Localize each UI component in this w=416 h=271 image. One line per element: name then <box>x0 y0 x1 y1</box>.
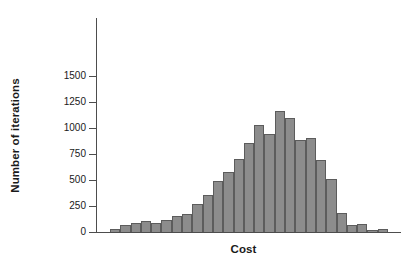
histogram-bar <box>275 111 285 232</box>
histogram-bar <box>306 138 316 232</box>
histogram-bar <box>357 224 367 232</box>
histogram-bar <box>131 223 141 232</box>
x-axis-line <box>96 232 401 233</box>
histogram-bar <box>337 213 347 232</box>
y-axis-tick-label: 0 <box>52 227 86 237</box>
histogram-bar <box>367 230 377 232</box>
histogram-bar <box>192 204 202 232</box>
histogram-bar <box>347 225 357 232</box>
histogram-bar <box>244 143 254 232</box>
y-axis-tick-label: 500 <box>52 175 86 185</box>
histogram-bar <box>172 216 182 232</box>
histogram-bar <box>141 221 151 232</box>
histogram-bar <box>326 179 336 232</box>
y-axis-tick-label: 250 <box>52 201 86 211</box>
histogram-bar <box>213 181 223 232</box>
histogram-figure: Number of iterations 0250500750100012501… <box>0 0 416 271</box>
y-axis-tick: 1250 <box>0 97 86 107</box>
plot-area <box>97 18 401 232</box>
histogram-bar <box>234 159 244 232</box>
x-axis-title: Cost <box>96 243 391 255</box>
histogram-bar <box>254 125 264 232</box>
histogram-bar <box>264 134 274 232</box>
y-axis-tick: 500 <box>0 175 86 185</box>
histogram-bar <box>316 160 326 232</box>
y-axis-tick: 750 <box>0 149 86 159</box>
y-axis-tick: 250 <box>0 201 86 211</box>
histogram-bar <box>182 214 192 232</box>
y-axis-tick-label: 1250 <box>52 97 86 107</box>
y-axis-tick-label: 750 <box>52 149 86 159</box>
histogram-bar <box>161 220 171 232</box>
histogram-bar <box>203 195 213 232</box>
y-axis-tick-label: 1500 <box>52 71 86 81</box>
histogram-bar <box>223 172 233 232</box>
histogram-bar <box>120 225 130 232</box>
histogram-bar <box>151 223 161 232</box>
histogram-bar <box>110 229 120 232</box>
histogram-bar <box>285 118 295 232</box>
histogram-bars <box>110 18 388 232</box>
y-axis-tick: 1000 <box>0 123 86 133</box>
histogram-bar <box>378 229 388 232</box>
y-axis-tick-label: 1000 <box>52 123 86 133</box>
y-axis-tick: 0 <box>0 227 86 237</box>
y-axis-tick: 1500 <box>0 71 86 81</box>
histogram-bar <box>295 140 305 232</box>
